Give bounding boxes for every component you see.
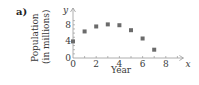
data-point bbox=[152, 48, 156, 52]
data-point bbox=[117, 23, 121, 27]
x-tick-label: 2 bbox=[93, 59, 99, 69]
data-point bbox=[83, 29, 87, 33]
data-point bbox=[94, 24, 98, 28]
scatter-plot: 02468048xy bbox=[0, 0, 199, 85]
y-tick-label: 0 bbox=[65, 53, 71, 63]
x-tick-label: 4 bbox=[117, 59, 123, 69]
x-tick-label: 0 bbox=[70, 59, 76, 69]
y-tick-label: 4 bbox=[65, 36, 71, 46]
x-tick-label: 8 bbox=[163, 59, 169, 69]
data-point bbox=[71, 39, 75, 43]
x-tick-label: 6 bbox=[140, 59, 146, 69]
y-axis-symbol: y bbox=[62, 5, 69, 15]
data-point bbox=[106, 22, 110, 26]
data-point bbox=[141, 36, 145, 40]
y-tick-label: 8 bbox=[65, 20, 71, 30]
data-point bbox=[129, 28, 133, 32]
x-axis-symbol: x bbox=[185, 59, 190, 69]
